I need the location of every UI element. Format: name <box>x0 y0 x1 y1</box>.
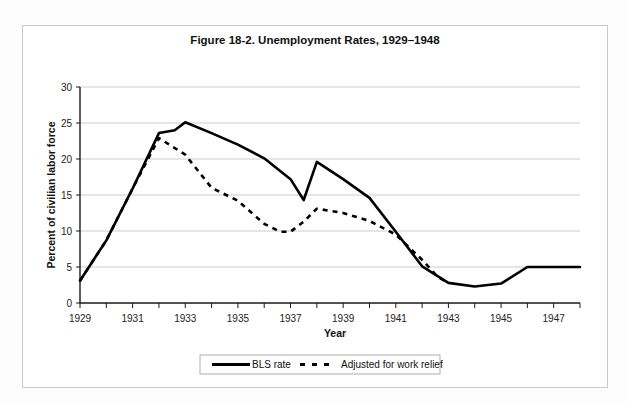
x-tick-label: 1941 <box>385 313 408 324</box>
x-tick-label: 1929 <box>69 313 92 324</box>
x-tick-label: 1945 <box>490 313 513 324</box>
y-axis-tick-labels: 051015202530 <box>61 82 73 309</box>
y-tick-label: 20 <box>61 154 73 165</box>
unemployment-rates-chart: Figure 18-2. Unemployment Rates, 1929–19… <box>0 0 630 406</box>
x-tick-label: 1947 <box>543 313 566 324</box>
y-axis-title: Percent of civilian labor force <box>45 121 57 268</box>
chart-legend: BLS rate Adjusted for work relief <box>200 355 443 374</box>
x-axis-title: Year <box>324 327 346 339</box>
x-tick-label: 1935 <box>227 313 250 324</box>
y-tick-label: 25 <box>61 118 73 129</box>
gridlines <box>80 87 580 267</box>
chart-title: Figure 18-2. Unemployment Rates, 1929–19… <box>190 34 440 46</box>
x-tick-label: 1931 <box>122 313 145 324</box>
legend-label-adjusted-for-work-relief: Adjusted for work relief <box>341 359 443 370</box>
y-tick-label: 5 <box>66 262 72 273</box>
x-tick-label: 1939 <box>332 313 355 324</box>
scanned-page: Figure 18-2. Unemployment Rates, 1929–19… <box>0 0 630 406</box>
y-tick-label: 10 <box>61 226 73 237</box>
y-tick-label: 0 <box>66 298 72 309</box>
y-tick-label: 15 <box>61 190 73 201</box>
x-tick-marks <box>80 303 580 308</box>
x-axis-tick-labels: 1929193119331935193719391941194319451947 <box>69 313 565 324</box>
x-tick-label: 1933 <box>174 313 197 324</box>
x-tick-label: 1943 <box>437 313 460 324</box>
y-tick-label: 30 <box>61 82 73 93</box>
x-tick-label: 1937 <box>279 313 302 324</box>
legend-label-bls-rate: BLS rate <box>252 359 291 370</box>
